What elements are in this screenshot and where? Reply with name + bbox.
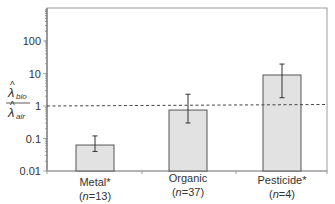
svg-text:air: air bbox=[16, 112, 25, 121]
y-tick-label: 0.1 bbox=[26, 133, 41, 145]
svg-text:^: ^ bbox=[10, 100, 15, 111]
svg-text:bio: bio bbox=[16, 92, 27, 101]
svg-text:^: ^ bbox=[10, 80, 15, 91]
y-tick-label: 1 bbox=[35, 100, 41, 112]
y-tick-label: 100 bbox=[23, 35, 41, 47]
x-category-labels: Metal* (n=13) Organic (n=37) Pesticide* … bbox=[79, 172, 307, 202]
category-label-organic: Organic bbox=[169, 172, 208, 184]
category-label-pesticide: Pesticide* bbox=[258, 174, 308, 186]
y-tick-label: 10 bbox=[29, 68, 41, 80]
chart: 100 10 1 0.1 0.01 λ ^ bio λ ^ air Metal*… bbox=[0, 0, 335, 204]
y-tick-label: 0.01 bbox=[20, 165, 41, 177]
category-n-organic: (n=37) bbox=[172, 186, 204, 198]
category-n-metal: (n=13) bbox=[79, 190, 111, 202]
y-axis-label: λ ^ bio λ ^ air bbox=[6, 80, 30, 121]
category-label-metal: Metal* bbox=[79, 176, 111, 188]
category-n-pesticide: (n=4) bbox=[269, 188, 295, 200]
